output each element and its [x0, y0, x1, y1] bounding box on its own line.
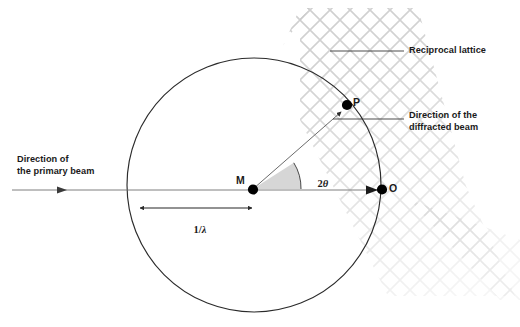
point-m-dot [248, 184, 258, 194]
point-p-dot [342, 100, 352, 110]
reciprocal-lattice-label: Reciprocal lattice [409, 45, 486, 56]
radius-label: 1/λ [183, 211, 206, 249]
two-theta-label-theta: θ [323, 178, 328, 189]
point-m-label: M [236, 174, 245, 187]
two-theta-angle-wedge [253, 163, 301, 189]
diffracted-beam-label-line1: Direction of the [409, 110, 477, 121]
radius-label-lambda: λ [202, 224, 207, 235]
radius-label-numerator: 1/ [194, 224, 202, 235]
primary-beam-label-line2: the primary beam [17, 166, 94, 177]
diffracted-beam-label-line2: diffracted beam [409, 122, 478, 133]
two-theta-label: 2θ [307, 165, 328, 203]
point-o-label: O [389, 182, 397, 195]
ewald-sphere-figure: Reciprocal lattice Direction of the diff… [0, 0, 520, 327]
point-o-dot [377, 184, 387, 194]
primary-beam-arrowhead [57, 187, 67, 194]
primary-beam-label-line1: Direction of [17, 154, 69, 165]
point-p-label: P [353, 96, 360, 109]
